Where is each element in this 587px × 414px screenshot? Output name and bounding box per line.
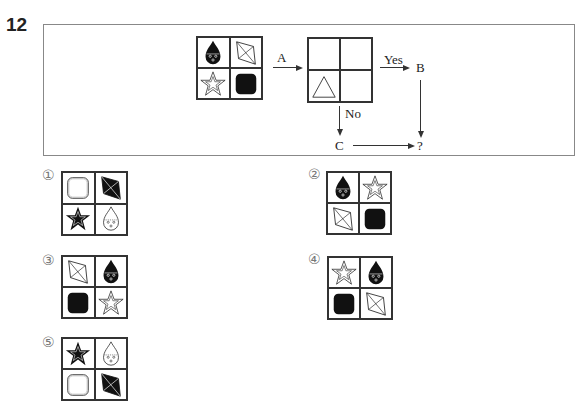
option-4-grid[interactable] [327,256,393,320]
option-3-grid[interactable] [61,255,128,319]
option-5-marker: ⑤ [42,334,55,350]
rounded-square-black-icon [230,68,263,99]
arrow-a-line [273,67,297,68]
rounded-square-black-icon [328,288,360,319]
drop-face-outline-icon [95,338,128,369]
triangle-outline-icon [308,70,340,102]
option-1-grid[interactable] [61,171,128,236]
yes-label: Yes [384,52,403,68]
star-black-icon [62,338,95,369]
arrow-a-head-icon [296,65,303,71]
no-down-head-icon [337,129,343,136]
result-label: ? [417,138,423,154]
question-number: 12 [6,14,27,36]
option-2-marker: ② [308,166,321,182]
yes-arrow-line [380,67,404,68]
rounded-square-black-icon [62,287,95,318]
b-down-line [420,80,421,132]
kite-outline-icon [230,37,263,68]
option-4-marker: ④ [308,251,321,267]
star-outline-icon [328,257,360,288]
empty-cell [308,38,340,70]
c-right-line [353,145,409,146]
start-grid [196,36,263,100]
c-right-head-icon [408,143,415,149]
no-label: No [345,106,361,122]
rounded-square-outline-icon [62,369,95,400]
no-down-line [339,106,340,130]
drop-face-black-icon [95,256,128,287]
b-label: B [416,60,425,76]
option-2-grid[interactable] [326,171,392,235]
yes-arrow-head-icon [403,65,410,71]
drop-face-black-icon [360,257,392,288]
rounded-square-black-icon [359,203,391,234]
b-down-head-icon [418,131,424,138]
option-1-marker: ① [42,167,55,183]
option-3-marker: ③ [42,252,55,268]
empty-cell [340,70,372,102]
kite-outline-icon [62,256,95,287]
rounded-square-outline-icon [62,172,95,204]
empty-cell [340,38,372,70]
drop-face-outline-icon [95,204,128,236]
drop-face-black-icon [197,37,230,68]
option-5-grid[interactable] [61,337,128,401]
kite-outline-icon [360,288,392,319]
c-label: C [335,138,344,154]
kite-black-icon [95,369,128,400]
drop-face-black-icon [327,172,359,203]
kite-outline-icon [327,203,359,234]
condition-grid [307,37,373,103]
star-outline-icon [359,172,391,203]
kite-black-icon [95,172,128,204]
star-outline-icon [197,68,230,99]
arrow-a-label: A [277,50,286,66]
star-outline-icon [95,287,128,318]
star-black-icon [62,204,95,236]
